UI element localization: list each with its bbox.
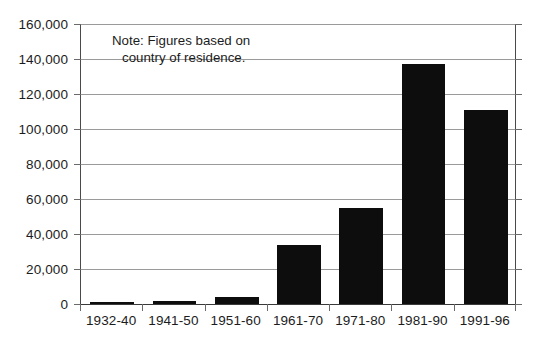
x-tick-label-1971-80: 1971-80: [335, 313, 385, 328]
y-tick-label-60000: 60,000: [26, 192, 68, 207]
x-tick-label-1932-40: 1932-40: [86, 313, 136, 328]
y-tick-label-120000: 120,000: [19, 87, 69, 102]
y-tick-mark-60000: [74, 199, 81, 200]
x-axis-labels: 1932-401941-501951-601961-701971-801981-…: [80, 313, 516, 341]
x-axis-ticks: [80, 304, 516, 312]
y-tick-mark-right-160000: [515, 24, 522, 25]
x-tick-mark-2: [205, 304, 206, 311]
y-tick-mark-100000: [74, 129, 81, 130]
y-tick-mark-right-60000: [515, 199, 522, 200]
y-tick-mark-right-80000: [515, 164, 522, 165]
bar-1951-60: [215, 297, 259, 304]
y-tick-mark-120000: [74, 94, 81, 95]
y-axis-labels: 160,000 140,000 120,000 100,000 80,000 6…: [0, 0, 76, 352]
chart-note-line-1: Note: Figures based on: [112, 32, 322, 49]
y-tick-mark-160000: [74, 24, 81, 25]
y-tick-mark-right-140000: [515, 59, 522, 60]
x-tick-mark-1: [142, 304, 143, 311]
bar-series: [81, 24, 515, 304]
y-tick-label-140000: 140,000: [19, 52, 69, 67]
y-tick-mark-right-40000: [515, 234, 522, 235]
y-tick-mark-right-120000: [515, 94, 522, 95]
y-tick-mark-80000: [74, 164, 81, 165]
x-tick-mark-4: [329, 304, 330, 311]
x-tick-label-1991-96: 1991-96: [460, 313, 510, 328]
y-tick-mark-right-100000: [515, 129, 522, 130]
bar-1971-80: [339, 208, 383, 304]
y-tick-label-80000: 80,000: [26, 157, 68, 172]
x-tick-mark-5: [391, 304, 392, 311]
x-tick-label-1941-50: 1941-50: [148, 313, 198, 328]
x-tick-label-1961-70: 1961-70: [273, 313, 323, 328]
x-tick-mark-0: [80, 304, 81, 311]
x-tick-label-1981-90: 1981-90: [397, 313, 447, 328]
y-tick-mark-140000: [74, 59, 81, 60]
x-tick-mark-3: [267, 304, 268, 311]
chart-note-line-2: country of residence.: [112, 49, 322, 66]
y-tick-label-40000: 40,000: [26, 227, 68, 242]
plot-area: [80, 24, 516, 304]
bar-1961-70: [277, 245, 321, 304]
y-tick-mark-20000: [74, 269, 81, 270]
y-tick-label-100000: 100,000: [19, 122, 69, 137]
bar-1991-96: [464, 110, 508, 304]
bar-1981-90: [402, 64, 446, 304]
y-tick-label-0: 0: [60, 297, 68, 312]
y-tick-mark-40000: [74, 234, 81, 235]
chart-note: Note: Figures based on country of reside…: [112, 32, 322, 66]
x-tick-mark-7: [515, 304, 516, 311]
y-tick-label-160000: 160,000: [19, 17, 69, 32]
bar-chart: 160,000 140,000 120,000 100,000 80,000 6…: [0, 0, 542, 352]
y-tick-label-20000: 20,000: [26, 262, 68, 277]
x-tick-mark-6: [454, 304, 455, 311]
y-tick-mark-right-20000: [515, 269, 522, 270]
x-tick-label-1951-60: 1951-60: [211, 313, 261, 328]
y-tick-mark-right-0: [515, 304, 522, 305]
